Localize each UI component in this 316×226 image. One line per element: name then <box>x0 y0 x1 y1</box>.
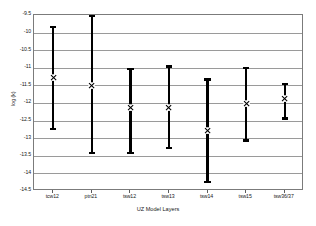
error-bar-cap-upper <box>166 65 172 67</box>
x-axis-tick-label: tsw36/37 <box>254 194 314 199</box>
y-axis-tick-label: -13 <box>5 135 31 140</box>
error-bar-cap-lower <box>243 139 249 141</box>
mean-marker-x-icon <box>281 95 288 102</box>
error-bar-cap-upper <box>127 68 133 70</box>
gridline <box>34 173 302 174</box>
error-bar-cap-lower <box>89 152 95 154</box>
gridline <box>34 33 302 34</box>
error-bar-cap-upper <box>204 78 210 80</box>
mean-marker-x-icon <box>88 82 95 89</box>
error-bar-cap-lower <box>127 152 133 154</box>
mean-marker-x-icon <box>127 104 134 111</box>
y-axis-tick-label: -10.5 <box>5 47 31 52</box>
error-bar-cap-upper <box>89 15 95 17</box>
gridline <box>34 156 302 157</box>
y-axis-tick-label: -13.5 <box>5 152 31 157</box>
y-axis-tick-label: -11.5 <box>5 82 31 87</box>
mean-marker-x-icon <box>165 104 172 111</box>
mean-marker-x-icon <box>204 127 211 134</box>
plot-area <box>33 14 303 190</box>
y-axis-tick-label: -11 <box>5 64 31 69</box>
chart-container: log (k) UZ Model Layers -9.5-10-10.5-11-… <box>0 0 316 226</box>
mean-marker-x-icon <box>50 74 57 81</box>
y-axis-tick-label: -14.5 <box>5 187 31 192</box>
y-axis-tick-label: -14 <box>5 170 31 175</box>
y-axis-tick-label: -10 <box>5 29 31 34</box>
error-bar-cap-upper <box>50 26 56 28</box>
error-bar-cap-lower <box>50 128 56 130</box>
error-bar-cap-lower <box>204 181 210 183</box>
y-axis-tick-label: -9.5 <box>5 11 31 16</box>
error-bar-cap-upper <box>282 83 288 85</box>
x-axis-title: UZ Model Layers <box>0 206 316 212</box>
y-axis-tick-label: -12.5 <box>5 117 31 122</box>
mean-marker-x-icon <box>243 100 250 107</box>
error-bar-cap-upper <box>243 67 249 69</box>
gridline <box>34 50 302 51</box>
error-bar-line <box>129 68 131 154</box>
error-bar-cap-lower <box>166 147 172 149</box>
error-bar-cap-lower <box>282 117 288 119</box>
y-axis-tick-label: -12 <box>5 99 31 104</box>
